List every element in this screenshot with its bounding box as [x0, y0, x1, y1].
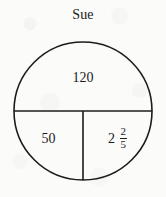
circle-diagram-lines [0, 0, 166, 197]
fraction: 2 5 [120, 126, 128, 150]
mixed-number: 2 2 5 [108, 126, 127, 150]
region-label-bottom-right: 2 2 5 [83, 126, 152, 150]
circle-fraction-figure: Sue 120 50 2 2 5 [0, 0, 166, 197]
fraction-numerator: 2 [120, 126, 128, 137]
region-label-bottom-left: 50 [14, 131, 83, 146]
mixed-number-whole-part: 2 [108, 131, 116, 146]
fraction-denominator: 5 [120, 139, 128, 150]
region-label-top: 120 [0, 70, 166, 85]
